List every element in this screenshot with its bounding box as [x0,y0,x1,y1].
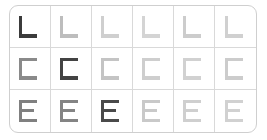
glyph-e [60,100,82,122]
glyph-stroke-top [60,58,78,61]
glyph-e [101,100,123,122]
glyph-e [183,100,205,122]
glyph-cell[interactable] [174,48,215,90]
glyph-stroke-bot [19,119,37,122]
glyph-c [225,58,247,80]
glyph-cell[interactable] [92,6,133,48]
glyph-stroke-bot [183,34,201,37]
glyph-stroke-mid [183,109,198,112]
screenshot-stage [0,0,267,140]
glyph-cell[interactable] [51,6,92,48]
glyph-cell[interactable] [174,6,215,48]
glyph-stroke-top [60,100,78,103]
glyph-grid [10,6,256,132]
glyph-cell[interactable] [133,6,174,48]
glyph-e [19,100,41,122]
glyph-stroke-bot [183,76,201,79]
glyph-stroke-top [142,100,160,103]
glyph-stroke-top [101,58,119,61]
glyph-c [60,58,82,80]
glyph-l [183,16,205,38]
glyph-c [142,58,164,80]
glyph-stroke-bot [142,34,160,37]
glyph-l [19,16,41,38]
glyph-stroke-bot [142,119,160,122]
glyph-c [101,58,123,80]
glyph-stroke-mid [225,109,240,112]
glyph-cell[interactable] [51,48,92,90]
glyph-cell[interactable] [133,90,174,132]
glyph-cell[interactable] [92,90,133,132]
glyph-cell[interactable] [51,90,92,132]
glyph-stroke-bot [19,34,37,37]
glyph-stroke-top [101,100,119,103]
glyph-l [225,16,247,38]
glyph-stroke-mid [101,109,116,112]
glyph-stroke-bot [60,34,78,37]
glyph-stroke-bot [60,119,78,122]
glyph-cell[interactable] [92,48,133,90]
glyph-cell[interactable] [10,6,51,48]
glyph-stroke-bot [60,76,78,79]
glyph-l [101,16,123,38]
glyph-stroke-top [183,58,201,61]
glyph-stroke-mid [142,109,157,112]
glyph-grid-card [9,5,257,133]
glyph-stroke-bot [225,34,243,37]
glyph-cell[interactable] [10,48,51,90]
glyph-cell[interactable] [215,48,256,90]
glyph-cell[interactable] [215,6,256,48]
glyph-stroke-bot [101,34,119,37]
glyph-c [183,58,205,80]
glyph-l [60,16,82,38]
glyph-stroke-top [142,58,160,61]
glyph-stroke-bot [225,76,243,79]
glyph-stroke-mid [60,109,75,112]
glyph-cell[interactable] [133,48,174,90]
glyph-stroke-bot [225,119,243,122]
glyph-stroke-bot [183,119,201,122]
glyph-stroke-mid [19,109,34,112]
glyph-stroke-top [19,100,37,103]
glyph-stroke-bot [142,76,160,79]
glyph-e [225,100,247,122]
glyph-cell[interactable] [174,90,215,132]
glyph-stroke-bot [19,76,37,79]
glyph-stroke-top [19,58,37,61]
glyph-l [142,16,164,38]
glyph-stroke-top [225,100,243,103]
glyph-stroke-top [183,100,201,103]
glyph-c [19,58,41,80]
glyph-cell[interactable] [215,90,256,132]
glyph-e [142,100,164,122]
glyph-stroke-bot [101,76,119,79]
glyph-stroke-bot [101,119,119,122]
glyph-cell[interactable] [10,90,51,132]
glyph-stroke-top [225,58,243,61]
